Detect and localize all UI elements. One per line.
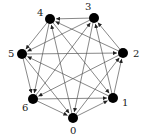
edge — [34, 19, 50, 93]
node — [28, 94, 38, 104]
node — [68, 113, 78, 123]
node — [45, 14, 55, 24]
directed-graph: 0123456 — [0, 0, 145, 137]
edge — [33, 99, 68, 115]
node-label: 1 — [122, 97, 128, 108]
edge — [73, 101, 108, 118]
node — [108, 93, 118, 103]
edge — [26, 19, 50, 49]
edge — [98, 23, 123, 53]
node-label: 3 — [85, 1, 91, 12]
node-label: 6 — [22, 102, 28, 113]
edge — [55, 22, 123, 53]
node-label: 5 — [8, 48, 14, 59]
edge — [56, 18, 94, 19]
node — [17, 49, 27, 59]
edge — [33, 98, 107, 99]
node — [89, 13, 99, 23]
node — [118, 48, 128, 58]
node-label: 2 — [133, 48, 139, 59]
node-label: 4 — [37, 7, 43, 18]
node-label: 0 — [70, 125, 76, 136]
